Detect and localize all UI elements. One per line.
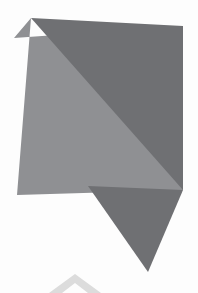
artboard [0, 0, 198, 293]
geometric-composition [0, 0, 198, 293]
